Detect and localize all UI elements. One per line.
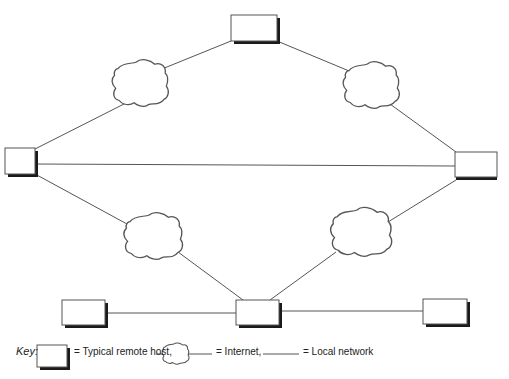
host-top[interactable] (231, 15, 280, 44)
legend-title: Key: (16, 345, 38, 357)
hosts (5, 15, 497, 328)
edge-cloud-top-left-to-left-host (35, 104, 124, 149)
edge-cloud-top-right-to-right-host (390, 104, 456, 152)
edge-top-host-to-cloud-top-right (277, 41, 354, 73)
cloud-bottom-right-icon (331, 207, 392, 256)
host-bottom-right[interactable] (423, 299, 470, 327)
host-left[interactable] (5, 148, 38, 177)
legend-host-text: = Typical remote host, (74, 346, 172, 357)
edge-right-host-to-cloud-bottom-right (388, 180, 456, 222)
edge-cloud-bottom-right-to-bottom-center-host (270, 252, 336, 300)
edge-left-host-to-right-host (36, 164, 455, 166)
edge-left-host-to-cloud-bottom-left (35, 174, 127, 224)
host-bottom-left[interactable] (62, 300, 108, 328)
legend-internet-text: = Internet, (216, 346, 261, 357)
host-right[interactable] (455, 152, 497, 180)
cloud-bottom-left-icon (124, 213, 183, 260)
edge-cloud-bottom-left-to-bottom-center-host (178, 252, 243, 300)
network-diagram (0, 0, 509, 379)
clouds (112, 60, 399, 260)
legend: Key: = Typical remote host, = Internet, … (0, 339, 509, 365)
edge-top-host-to-cloud-top-left (157, 41, 231, 71)
legend-local-network-text: = Local network (303, 346, 373, 357)
cloud-top-right-icon (343, 62, 399, 109)
cloud-top-left-icon (112, 60, 168, 107)
host-bottom-center[interactable] (236, 300, 282, 328)
